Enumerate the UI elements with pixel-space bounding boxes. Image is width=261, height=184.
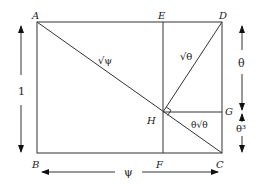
point-a-label: A	[31, 10, 39, 21]
point-b-label: B	[31, 159, 39, 170]
theta-label: θ	[238, 57, 245, 70]
point-c-label: C	[216, 159, 224, 170]
point-f-label: F	[155, 159, 164, 170]
diagonal-ac	[37, 22, 222, 153]
diagram-canvas: 1 ψ θ θ³ A E D B F C G H √ψ √θ θ√θ	[0, 0, 261, 184]
point-g-label: G	[225, 106, 233, 117]
segment-hc-label: θ√θ	[191, 120, 208, 130]
segment-dh-label: √θ	[180, 51, 192, 62]
height-label: 1	[18, 85, 25, 98]
theta-cubed-label: θ³	[236, 123, 246, 134]
segment-ah-label: √ψ	[98, 55, 112, 66]
segment-dh	[163, 22, 222, 112]
point-e-label: E	[157, 10, 166, 21]
width-label: ψ	[124, 166, 133, 179]
point-h-label: H	[146, 115, 156, 126]
point-d-label: D	[218, 10, 227, 21]
